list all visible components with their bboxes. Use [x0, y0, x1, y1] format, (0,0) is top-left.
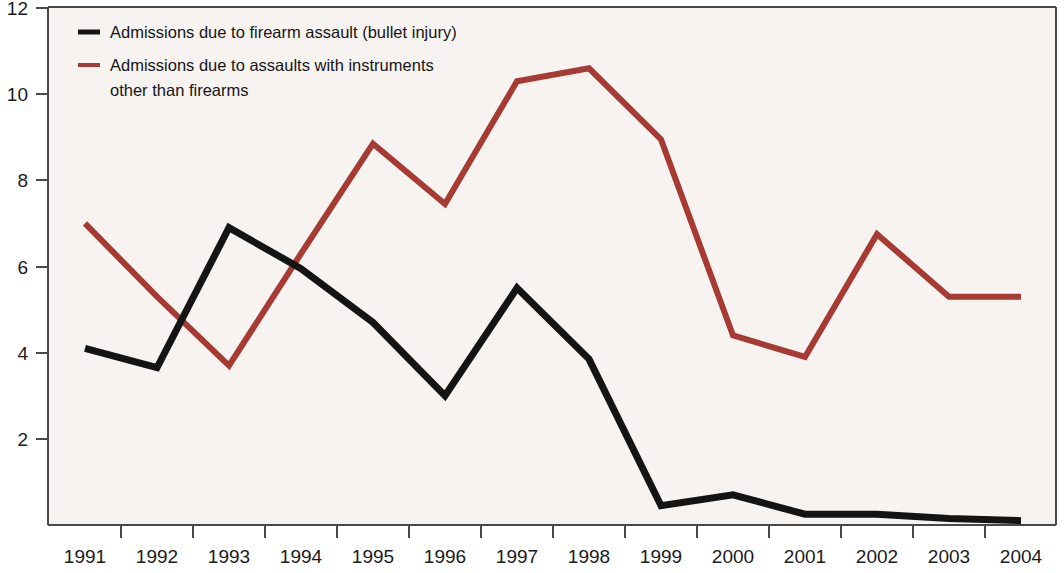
- x-tick-label-2001: 2001: [784, 546, 826, 567]
- x-tick-label-1992: 1992: [136, 546, 178, 567]
- y-tick-label-10: 10: [7, 84, 28, 105]
- x-tick-label-1993: 1993: [208, 546, 250, 567]
- x-tick-label-1999: 1999: [640, 546, 682, 567]
- x-tick-label-1997: 1997: [496, 546, 538, 567]
- y-tick-label-2: 2: [17, 429, 28, 450]
- line-chart: 12 10 8 6 4 2 19911992199319941995199619…: [0, 0, 1064, 573]
- x-tick-label-1991: 1991: [64, 546, 106, 567]
- x-tick-label-1998: 1998: [568, 546, 610, 567]
- legend-label-firearm-assault: Admissions due to firearm assault (bulle…: [110, 23, 457, 41]
- y-tick-label-8: 8: [17, 170, 28, 191]
- legend-label-other-instruments-line2: other than firearms: [110, 81, 248, 99]
- x-tick-label-2004: 2004: [1000, 546, 1043, 567]
- y-tick-label-12: 12: [7, 0, 28, 19]
- y-axis-ticks: 12 10 8 6 4 2: [7, 0, 48, 450]
- x-axis-ticks: [121, 525, 985, 538]
- y-tick-label-4: 4: [17, 343, 28, 364]
- x-tick-label-1996: 1996: [424, 546, 466, 567]
- x-axis-labels: 1991199219931994199519961997199819992000…: [64, 546, 1043, 567]
- x-tick-label-1994: 1994: [280, 546, 323, 567]
- x-tick-label-1995: 1995: [352, 546, 394, 567]
- chart-figure: 12 10 8 6 4 2 19911992199319941995199619…: [0, 0, 1064, 573]
- x-tick-label-2003: 2003: [928, 546, 970, 567]
- x-tick-label-2002: 2002: [856, 546, 898, 567]
- y-tick-label-6: 6: [17, 257, 28, 278]
- legend-label-other-instruments: Admissions due to assaults with instrume…: [110, 56, 434, 74]
- x-tick-label-2000: 2000: [712, 546, 754, 567]
